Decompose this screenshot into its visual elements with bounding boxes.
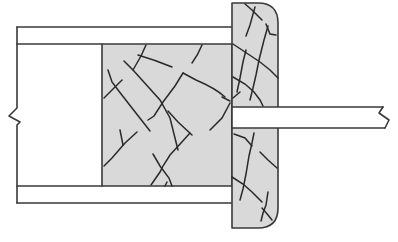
tube-wall-top (17, 27, 232, 44)
tube-wall-bottom (17, 186, 232, 203)
break-line-left (9, 27, 20, 203)
rod (232, 107, 385, 128)
tube-cap-diagram (0, 0, 398, 242)
core-block (102, 44, 232, 186)
